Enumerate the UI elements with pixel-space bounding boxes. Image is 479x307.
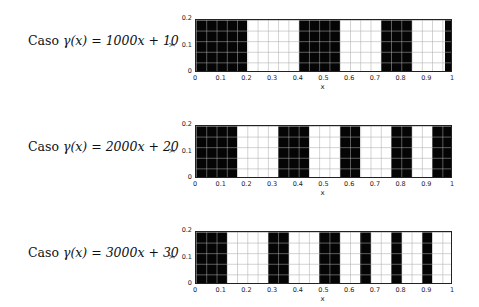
x-tick-label: 0.1: [211, 286, 231, 294]
x-tick-label: 0.7: [365, 286, 385, 294]
x-tick-label: 0.1: [211, 180, 231, 188]
y-axis-label: y: [167, 254, 175, 258]
panel-caption: Caso γ(x) = 1000x + 10: [28, 33, 179, 48]
filled-region: [381, 20, 412, 71]
x-tick-label: 0.8: [391, 74, 411, 82]
panel-caption: Caso γ(x) = 3000x + 30: [28, 245, 179, 260]
x-tick-label: 0: [185, 286, 205, 294]
x-tick-label: 1: [442, 286, 462, 294]
filled-region: [319, 232, 340, 283]
x-tick-label: 0.6: [339, 286, 359, 294]
filled-region: [196, 126, 237, 177]
filled-region: [360, 232, 370, 283]
x-tick-label: 0: [185, 180, 205, 188]
x-tick-label: 0.6: [339, 180, 359, 188]
x-tick-label: 0.5: [314, 180, 334, 188]
x-axis-label: x: [321, 189, 325, 197]
x-tick-label: 0.6: [339, 74, 359, 82]
x-tick-label: 0.4: [288, 286, 308, 294]
x-tick-label: 0.3: [262, 286, 282, 294]
x-tick-label: 0.8: [391, 286, 411, 294]
filled-region: [391, 126, 412, 177]
x-tick-label: 0.4: [288, 180, 308, 188]
y-axis-label: y: [167, 42, 175, 46]
x-tick-label: 1: [442, 180, 462, 188]
filled-region: [196, 232, 227, 283]
filled-region: [340, 126, 361, 177]
y-axis-label: y: [167, 148, 175, 152]
filled-region: [299, 20, 340, 71]
x-tick-label: 0.3: [262, 74, 282, 82]
filled-region: [445, 20, 452, 71]
caption-prefix: Caso: [28, 139, 63, 154]
caption-prefix: Caso: [28, 33, 63, 48]
x-tick-label: 0.4: [288, 74, 308, 82]
x-tick-label: 0.9: [416, 286, 436, 294]
x-tick-label: 0.2: [236, 180, 256, 188]
y-tick-label: 0.2: [170, 120, 192, 128]
panel-caption: Caso γ(x) = 2000x + 20: [28, 139, 179, 154]
x-tick-label: 0: [185, 74, 205, 82]
x-tick-label: 0.7: [365, 74, 385, 82]
x-axis-label: x: [321, 83, 325, 91]
x-tick-label: 0.7: [365, 180, 385, 188]
y-tick-label: 0.2: [170, 226, 192, 234]
filled-region: [278, 126, 309, 177]
plot-area: [195, 125, 452, 178]
x-tick-label: 0.1: [211, 74, 231, 82]
x-tick-label: 0.2: [236, 74, 256, 82]
x-tick-label: 0.3: [262, 180, 282, 188]
caption-prefix: Caso: [28, 245, 63, 260]
caption-formula: γ(x) = 2000x + 20: [63, 139, 179, 154]
plot-area: [195, 19, 452, 72]
plot-area: [195, 231, 452, 284]
x-tick-label: 0.2: [236, 286, 256, 294]
x-tick-label: 0.8: [391, 180, 411, 188]
y-tick-label: 0.2: [170, 14, 192, 22]
x-tick-label: 0.5: [314, 74, 334, 82]
x-tick-label: 0.9: [416, 180, 436, 188]
caption-formula: γ(x) = 3000x + 30: [63, 245, 179, 260]
x-tick-label: 0.5: [314, 286, 334, 294]
caption-formula: γ(x) = 1000x + 10: [63, 33, 179, 48]
filled-region: [391, 232, 401, 283]
x-tick-label: 1: [442, 74, 462, 82]
x-tick-label: 0.9: [416, 74, 436, 82]
filled-region: [268, 232, 289, 283]
filled-region: [432, 126, 452, 177]
filled-region: [196, 20, 247, 71]
filled-region: [422, 232, 432, 283]
x-axis-label: x: [321, 295, 325, 303]
